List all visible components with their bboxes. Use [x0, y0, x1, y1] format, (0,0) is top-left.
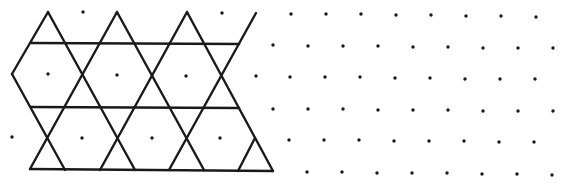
grid-dot — [220, 11, 223, 14]
grid-dot — [341, 44, 344, 47]
grid-dot — [115, 73, 118, 76]
grid-dot — [358, 75, 361, 78]
grid-dot — [306, 107, 309, 110]
grid-dot — [46, 72, 49, 75]
grid-dot — [463, 77, 466, 80]
grid-dot — [305, 170, 308, 173]
grid-dot — [254, 74, 257, 77]
grid-dot — [288, 75, 291, 78]
grid-dot — [80, 136, 83, 139]
grid-dot — [533, 77, 536, 80]
background — [0, 0, 562, 188]
grid-dot — [375, 171, 378, 174]
grid-dot — [271, 43, 274, 46]
grid-dot — [427, 139, 430, 142]
grid-dot — [550, 173, 553, 176]
grid-dot — [516, 46, 519, 49]
grid-dot — [376, 44, 379, 47]
grid-dot — [393, 76, 396, 79]
grid-dot — [287, 138, 290, 141]
grid-dot — [376, 108, 379, 111]
grid-dot — [411, 45, 414, 48]
grid-dot — [480, 172, 483, 175]
grid-dot — [271, 107, 274, 110]
grid-dot — [532, 140, 535, 143]
grid-dot — [481, 46, 484, 49]
grid-dot — [322, 138, 325, 141]
grid-dot — [445, 171, 448, 174]
grid-dot — [218, 136, 221, 139]
grid-dot — [462, 139, 465, 142]
grid-dot — [497, 140, 500, 143]
grid-dot — [359, 12, 362, 15]
grid-dot — [81, 10, 84, 13]
grid-dot — [429, 13, 432, 16]
grid-dot — [534, 15, 537, 18]
grid-dot — [10, 135, 13, 138]
grid-dot — [289, 12, 292, 15]
grid-dot — [551, 46, 554, 49]
grid-dot — [481, 109, 484, 112]
grid-dot — [411, 108, 414, 111]
grid-dot — [464, 14, 467, 17]
dot-grid-diagram — [0, 0, 562, 188]
grid-dot — [184, 74, 187, 77]
grid-dot — [392, 139, 395, 142]
grid-dot — [446, 45, 449, 48]
grid-dot — [428, 76, 431, 79]
grid-dot — [150, 136, 153, 139]
grid-dot — [498, 77, 501, 80]
grid-dot — [340, 170, 343, 173]
grid-dot — [341, 107, 344, 110]
grid-dot — [323, 75, 326, 78]
grid-dot — [446, 108, 449, 111]
grid-dot — [306, 44, 309, 47]
grid-dot — [324, 12, 327, 15]
grid-dot — [551, 109, 554, 112]
grid-dot — [499, 14, 502, 17]
grid-dot — [410, 171, 413, 174]
grid-dot — [516, 109, 519, 112]
grid-dot — [394, 13, 397, 16]
grid-dot — [515, 172, 518, 175]
grid-dot — [357, 138, 360, 141]
